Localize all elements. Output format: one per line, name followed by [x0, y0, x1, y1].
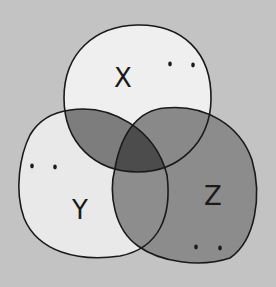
set-y-label: Y [71, 195, 88, 225]
venn-svg: X Y Z [0, 0, 276, 287]
set-z-label: Z [204, 181, 222, 211]
set-x-label: X [114, 63, 132, 93]
venn-diagram: X Y Z [0, 0, 276, 287]
